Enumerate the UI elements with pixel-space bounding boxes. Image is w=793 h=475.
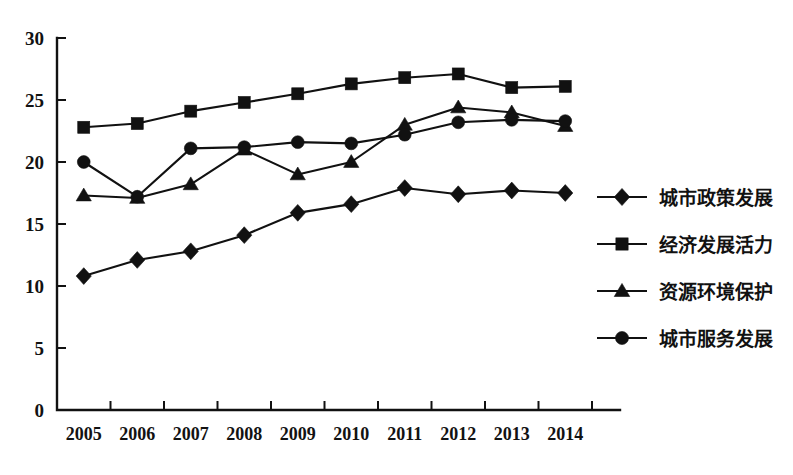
- series-line: [84, 188, 566, 276]
- marker-diamond: [76, 268, 91, 285]
- marker-diamond: [290, 204, 305, 221]
- marker-diamond: [344, 196, 359, 213]
- legend-item-4[interactable]: 城市服务发展: [597, 328, 773, 350]
- legend-item-2[interactable]: 经济发展活力: [597, 234, 773, 256]
- marker-circle: [184, 142, 197, 155]
- line-chart: 051015202530 200520062007200820092010201…: [0, 0, 793, 475]
- marker-square: [616, 238, 628, 250]
- marker-circle: [345, 137, 358, 150]
- x-axis-tick-label: 2010: [333, 424, 369, 444]
- marker-square: [345, 78, 357, 90]
- x-axis-tick-label: 2009: [280, 424, 316, 444]
- marker-circle: [77, 156, 90, 169]
- y-axis-tick-label: 25: [25, 90, 44, 111]
- y-axis-tick-labels: 051015202530: [25, 28, 44, 421]
- marker-circle: [505, 113, 518, 126]
- marker-square: [452, 68, 464, 80]
- marker-triangle: [76, 188, 91, 201]
- x-axis-tick-label: 2005: [66, 424, 102, 444]
- legend-item-1[interactable]: 城市政策发展: [597, 187, 773, 209]
- marker-circle: [452, 116, 465, 129]
- marker-diamond: [183, 243, 198, 260]
- series-4: [77, 113, 571, 203]
- marker-square: [78, 121, 90, 133]
- marker-diamond: [451, 186, 466, 203]
- x-axis-tick-label: 2007: [173, 424, 209, 444]
- marker-square: [292, 88, 304, 100]
- marker-triangle: [344, 155, 359, 168]
- legend-item-label: 经济发展活力: [659, 234, 773, 256]
- chart-legend: 城市政策发展经济发展活力资源环境保护城市服务发展: [597, 187, 773, 350]
- marker-circle: [398, 128, 411, 141]
- y-axis-tick-label: 5: [35, 338, 45, 359]
- legend-item-3[interactable]: 资源环境保护: [597, 281, 773, 303]
- marker-diamond: [237, 227, 252, 244]
- marker-triangle: [451, 100, 466, 113]
- marker-circle: [238, 141, 251, 154]
- series-line: [84, 120, 566, 197]
- marker-square: [238, 96, 250, 108]
- legend-item-label: 资源环境保护: [659, 281, 773, 303]
- x-axis-tick-label: 2011: [387, 424, 422, 444]
- x-axis-tick-label: 2013: [494, 424, 530, 444]
- chart-canvas: 051015202530 200520062007200820092010201…: [0, 0, 793, 475]
- series-2: [78, 68, 572, 133]
- marker-circle: [131, 190, 144, 203]
- marker-square: [131, 118, 143, 130]
- marker-square: [399, 72, 411, 84]
- marker-circle: [291, 136, 304, 149]
- marker-diamond: [130, 252, 145, 269]
- series-line: [84, 74, 566, 127]
- x-axis-tick-label: 2006: [119, 424, 155, 444]
- marker-diamond: [397, 180, 412, 197]
- legend-item-label: 城市政策发展: [659, 187, 773, 209]
- y-axis-tick-label: 0: [35, 400, 45, 421]
- marker-diamond: [558, 185, 573, 202]
- marker-diamond: [614, 188, 630, 205]
- series-layer: [76, 68, 573, 285]
- x-axis-tick-labels: 2005200620072008200920102011201220132014: [66, 424, 584, 444]
- y-axis-tick-label: 30: [25, 28, 44, 49]
- x-axis-tick-label: 2014: [547, 424, 583, 444]
- axis-lines: [57, 38, 620, 410]
- marker-circle: [615, 331, 628, 344]
- marker-square: [559, 80, 571, 92]
- marker-diamond: [504, 182, 519, 199]
- y-axis-tick-label: 10: [25, 276, 44, 297]
- marker-square: [185, 105, 197, 117]
- y-axis-tick-label: 15: [25, 214, 44, 235]
- legend-item-label: 城市服务发展: [659, 328, 773, 350]
- y-axis-tick-label: 20: [25, 152, 44, 173]
- marker-square: [506, 82, 518, 94]
- series-3: [76, 100, 573, 203]
- chart-axes: [57, 38, 620, 410]
- x-axis-tick-label: 2008: [226, 424, 262, 444]
- marker-circle: [559, 115, 572, 128]
- x-axis-tick-label: 2012: [440, 424, 476, 444]
- marker-triangle: [183, 177, 198, 190]
